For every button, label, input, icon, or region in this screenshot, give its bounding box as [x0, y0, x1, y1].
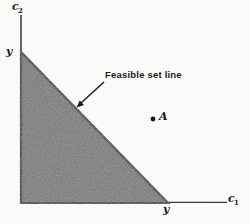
x-axis-label: c1: [228, 193, 239, 204]
y-axis-label: c2: [12, 1, 23, 12]
y-axis-label-sub: 2: [18, 6, 23, 15]
point-a-label: A: [159, 111, 168, 122]
point-a-dot: [151, 117, 156, 122]
figure-canvas: c2 y Feasible set line A y c1: [0, 0, 250, 224]
feasible-line-label: Feasible set line: [105, 70, 182, 80]
diagram-svg: [0, 0, 250, 224]
y-intercept-label-horizontal: y: [163, 204, 169, 215]
y-intercept-label-vertical: y: [6, 46, 12, 57]
x-axis-label-sub: 1: [234, 198, 239, 207]
